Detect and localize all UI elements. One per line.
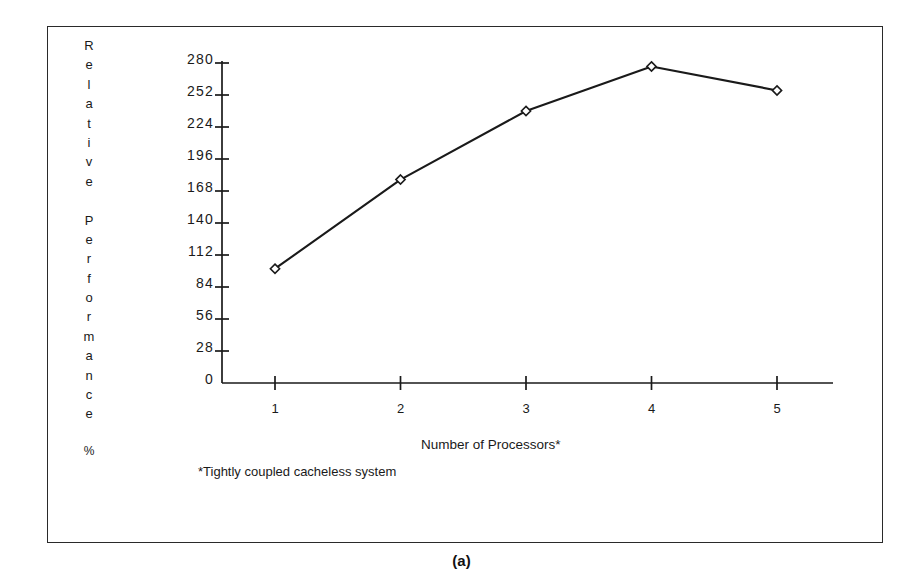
data-point-marker <box>521 106 530 115</box>
series-polyline <box>275 66 777 268</box>
figure-caption: (a) <box>0 552 923 569</box>
data-point-marker <box>772 86 781 95</box>
data-point-marker <box>647 62 656 71</box>
x-axis-title: Number of Processors* <box>421 437 561 452</box>
chart-plot <box>0 0 923 583</box>
data-series-line <box>275 66 777 268</box>
chart-footnote: *Tightly coupled cacheless system <box>198 464 396 479</box>
data-point-markers <box>270 62 781 273</box>
